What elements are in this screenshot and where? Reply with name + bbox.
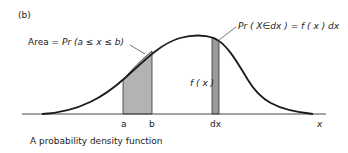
shaded-area-a-to-b: [123, 51, 152, 114]
figure-caption: A probability density function: [30, 136, 163, 146]
area-label-prefix: Area =: [28, 37, 62, 47]
tick-label-b: b: [149, 119, 155, 129]
strip-probability-label: Pr ( X∈dx ) = f ( x ) dx: [238, 21, 340, 31]
area-label: Area = Pr (a ≤ x ≤ b): [28, 37, 124, 47]
pdf-diagram: (b) Area = Pr (a ≤ x ≤ b) Pr ( X∈dx ) = …: [0, 0, 348, 153]
tick-label-dx: dx: [210, 119, 222, 129]
area-label-expr: Pr (a ≤ x ≤ b): [62, 37, 124, 47]
tick-label-a: a: [121, 119, 127, 129]
strip-leader-line: [219, 27, 236, 40]
density-curve: [42, 35, 313, 114]
density-height-label: f ( x ): [190, 78, 214, 88]
dx-strip: [212, 38, 219, 114]
area-leader-line: [130, 45, 145, 54]
x-axis-label: x: [316, 119, 323, 129]
panel-label: (b): [18, 10, 31, 20]
